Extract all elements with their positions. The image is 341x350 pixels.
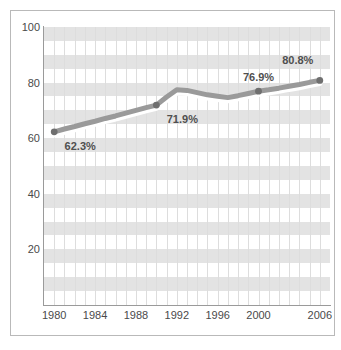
plot-area: 62.3%71.9%76.9%80.8% bbox=[44, 27, 330, 305]
x-axis-tick-label: 2000 bbox=[246, 309, 270, 322]
data-point-label: 80.8% bbox=[282, 54, 313, 66]
chart-figure: 20406080100 62.3%71.9%76.9%80.8% 1980198… bbox=[0, 0, 341, 350]
x-axis-tick-label: 1992 bbox=[165, 309, 189, 322]
x-axis-tick-label: 1996 bbox=[205, 309, 229, 322]
y-axis-tick-label: 40 bbox=[6, 189, 40, 200]
x-axis-line bbox=[43, 305, 331, 306]
y-axis-tick-label: 100 bbox=[6, 22, 40, 33]
data-point-label: 71.9% bbox=[167, 113, 198, 125]
point-label-layer: 62.3%71.9%76.9%80.8% bbox=[44, 27, 330, 305]
y-axis-tick-label: 20 bbox=[6, 244, 40, 255]
y-axis-tick-label: 80 bbox=[6, 78, 40, 89]
x-axis-tick-label: 1984 bbox=[83, 309, 107, 322]
x-axis-tick-labels: 1980198419881992199620002006 bbox=[0, 309, 341, 329]
x-axis-tick-label: 1980 bbox=[42, 309, 66, 322]
data-point-label: 62.3% bbox=[65, 140, 96, 152]
y-axis-tick-labels: 20406080100 bbox=[0, 0, 40, 350]
x-axis-tick-label: 2006 bbox=[308, 309, 332, 322]
y-axis-tick-label: 60 bbox=[6, 133, 40, 144]
data-point-label: 76.9% bbox=[243, 71, 274, 83]
x-axis-tick-label: 1988 bbox=[124, 309, 148, 322]
